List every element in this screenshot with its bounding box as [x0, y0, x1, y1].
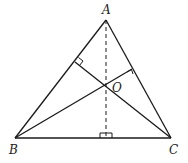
label-b: B	[8, 143, 18, 157]
altitude-from-b	[15, 69, 132, 138]
right-angle-mark-ac	[127, 70, 133, 75]
side-ab	[15, 20, 106, 138]
altitude-from-c	[75, 62, 171, 138]
label-o: O	[112, 81, 122, 95]
right-angle-mark-ab	[79, 58, 84, 66]
label-c: C	[169, 143, 178, 157]
orthocenter-diagram: A B C O	[0, 0, 188, 163]
label-a: A	[101, 3, 111, 17]
